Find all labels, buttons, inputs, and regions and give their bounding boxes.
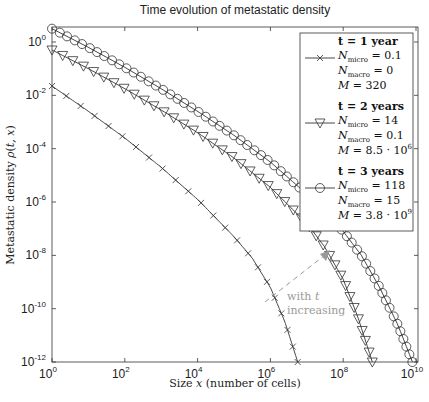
legend-detail: Nmacro = 0.1 [337,129,404,144]
legend-heading: t = 3 years [338,165,404,178]
legend: t = 1 yearNmicro = 0.1Nmacro = 0M = 320t… [300,33,413,231]
annotation-line-1: with t [287,290,320,303]
legend-detail: M = 8.5 · 106 [337,143,412,157]
y-tick-label: 10-4 [26,140,47,156]
legend-detail: Nmicro = 118 [337,179,405,194]
x-tick-label: 100 [39,365,57,381]
y-tick-label: 100 [28,33,46,49]
x-axis-label: Size x (number of cells) [169,377,301,390]
annotation-line-2: increasing [287,304,345,317]
y-tick-label: 10-6 [26,193,47,209]
chart-title: Time evolution of metastatic density [140,3,330,17]
x-tick-label: 102 [112,365,130,381]
x-tick-label: 108 [330,365,348,381]
x-tick-label: 1010 [401,365,424,381]
legend-detail: M = 3.8 · 109 [337,208,412,222]
y-tick-label: 10-2 [26,86,47,102]
legend-detail: Nmicro = 14 [337,114,398,129]
legend-heading: t = 1 year [338,35,398,48]
chart: Time evolution of metastatic density 100… [0,0,429,402]
y-tick-label: 10-8 [26,246,47,262]
legend-heading: t = 2 years [338,100,404,113]
legend-detail: M = 320 [337,79,386,92]
y-axis-label: Metastatic density ρ(t, x) [4,125,17,265]
y-tick-label: 10-10 [21,300,46,316]
legend-detail: Nmicro = 0.1 [337,49,402,64]
